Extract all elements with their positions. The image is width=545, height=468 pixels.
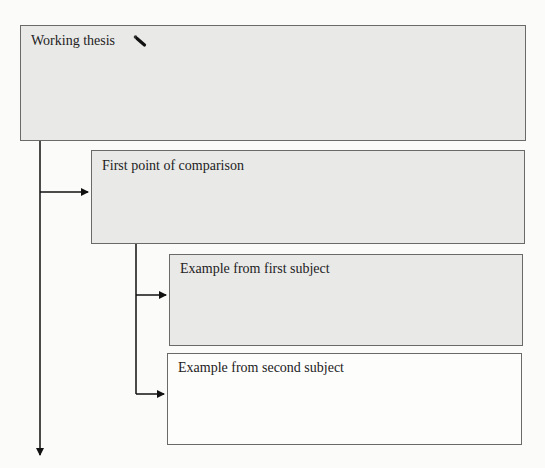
- thesis-label: Working thesis: [31, 33, 115, 49]
- point-label: First point of comparison: [102, 158, 244, 174]
- thesis-box: Working thesis: [20, 25, 526, 141]
- example1-box: Example from first subject: [169, 254, 523, 346]
- example1-label: Example from first subject: [180, 261, 330, 277]
- example2-box: Example from second subject: [167, 353, 522, 445]
- pencil-icon[interactable]: [132, 33, 148, 52]
- point-box: First point of comparison: [91, 150, 525, 244]
- example2-label: Example from second subject: [178, 360, 344, 376]
